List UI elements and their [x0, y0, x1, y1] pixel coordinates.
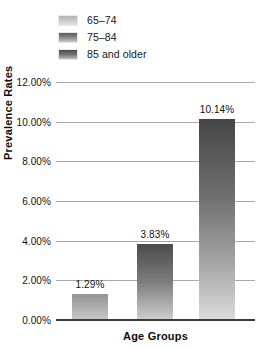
y-axis-tick-label: 6.00%: [22, 196, 51, 207]
legend-item: 75–84: [58, 29, 258, 45]
y-axis-tick-label: 2.00%: [22, 275, 51, 286]
y-axis-tick-label: 0.00%: [22, 315, 51, 326]
legend-item: 65–74: [58, 12, 258, 28]
bar-value-label: 10.14%: [200, 104, 235, 115]
legend-swatch-75-84-icon: [58, 32, 78, 43]
y-axis-title: Prevalence Rates: [2, 66, 14, 160]
legend-label: 75–84: [87, 31, 117, 43]
y-axis-tick-label: 4.00%: [22, 235, 51, 246]
y-axis-tick-label: 8.00%: [22, 156, 51, 167]
x-axis-title: Age Groups: [56, 330, 255, 342]
legend-label: 65–74: [87, 14, 117, 26]
bar: [199, 119, 235, 320]
y-axis-tick-label: 10.00%: [16, 116, 51, 127]
legend-item: 85 and older: [58, 46, 258, 62]
bar-value-label: 3.83%: [141, 229, 170, 240]
bar: [72, 294, 108, 320]
bar: [137, 244, 173, 320]
chart-legend: 65–74 75–84 85 and older: [58, 12, 258, 63]
legend-swatch-85-and-older-icon: [58, 49, 78, 60]
gridline: [56, 82, 255, 83]
bar-value-label: 1.29%: [76, 279, 105, 290]
legend-swatch-65-74-icon: [58, 15, 78, 26]
y-axis-tick-label: 12.00%: [16, 77, 51, 88]
legend-label: 85 and older: [87, 48, 147, 60]
x-axis-line: [56, 319, 255, 321]
